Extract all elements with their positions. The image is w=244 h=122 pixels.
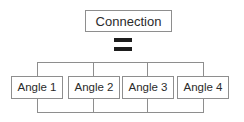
top-connector-drop-1 [37, 62, 38, 77]
top-connector-bar [37, 62, 204, 63]
equals-sign [114, 37, 132, 53]
node-angle-4[interactable]: Angle 4 [177, 76, 229, 99]
node-angle-2[interactable]: Angle 2 [68, 76, 120, 99]
equals-sign-bar-top [114, 38, 132, 42]
node-angle-4-label: Angle 4 [183, 82, 222, 94]
bottom-connector-bar [37, 112, 204, 113]
bottom-connector-rise-2 [93, 98, 94, 113]
equals-sign-bar-bottom [114, 47, 132, 51]
top-connector-drop-3 [147, 62, 148, 77]
node-angle-3[interactable]: Angle 3 [122, 76, 174, 99]
bottom-connector-rise-3 [147, 98, 148, 113]
bottom-connector-rise-4 [203, 98, 204, 113]
node-angle-1-label: Angle 1 [17, 82, 56, 94]
top-connector-drop-2 [93, 62, 94, 77]
top-connector-drop-4 [203, 62, 204, 77]
diagram-canvas: Connection Angle 1 Angle 2 Angle 3 Angle… [0, 0, 244, 122]
node-angle-2-label: Angle 2 [74, 82, 113, 94]
node-connection-label: Connection [96, 15, 162, 28]
node-angle-3-label: Angle 3 [128, 82, 167, 94]
node-connection[interactable]: Connection [85, 10, 172, 32]
node-angle-1[interactable]: Angle 1 [11, 76, 63, 99]
bottom-connector-rise-1 [37, 98, 38, 113]
